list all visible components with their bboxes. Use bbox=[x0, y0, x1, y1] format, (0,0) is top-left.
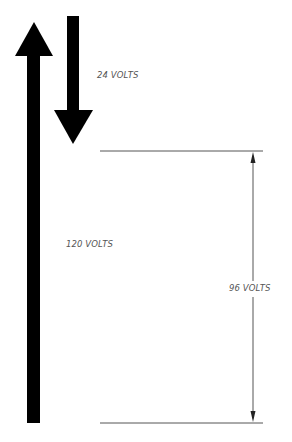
down-arrow-icon bbox=[54, 16, 93, 144]
dimension-arrow-down-icon bbox=[251, 411, 256, 422]
voltage-diagram: 24 VOLTS 120 VOLTS 96 VOLTS bbox=[0, 0, 292, 442]
drop-voltage-label: 24 VOLTS bbox=[97, 70, 139, 80]
difference-voltage-label: 96 VOLTS bbox=[229, 283, 271, 293]
source-voltage-label: 120 VOLTS bbox=[66, 239, 113, 249]
dimension-arrow-up-icon bbox=[251, 152, 256, 163]
up-arrow-icon bbox=[15, 22, 53, 423]
